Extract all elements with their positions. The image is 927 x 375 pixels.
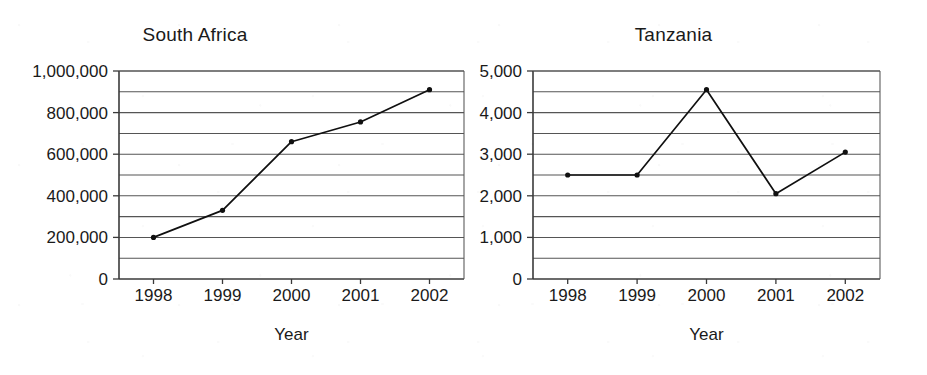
y-tick-label: 3,000 [479,145,522,164]
x-axis-title: Year [274,325,309,344]
x-tick-label: 2001 [342,286,380,305]
y-tick-label: 600,000 [47,145,108,164]
plot-area-tanzania: 01,0002,0003,0004,0005,00019981999200020… [460,0,927,375]
y-tick-label: 0 [99,270,108,289]
chart-panel-tanzania: Tanzania 01,0002,0003,0004,0005,00019981… [460,0,927,375]
data-point-marker [773,191,778,196]
data-point-marker [289,139,294,144]
data-point-marker [635,172,640,177]
y-tick-label: 400,000 [47,187,108,206]
data-point-marker [843,150,848,155]
data-point-marker [220,208,225,213]
x-axis-title: Year [689,325,724,344]
x-tick-label: 2002 [826,286,864,305]
data-point-marker [358,119,363,124]
x-tick-label: 2001 [757,286,795,305]
y-tick-label: 200,000 [47,228,108,247]
chart-panel-south-africa: South Africa 0200,000400,000600,000800,0… [0,0,470,375]
data-point-marker [427,87,432,92]
data-point-marker [704,87,709,92]
y-tick-label: 800,000 [47,104,108,123]
data-point-marker [565,172,570,177]
y-tick-label: 0 [513,270,522,289]
x-tick-label: 1998 [549,286,587,305]
x-tick-label: 1998 [135,286,173,305]
y-tick-label: 1,000,000 [32,62,108,81]
y-tick-label: 5,000 [479,62,522,81]
x-tick-label: 1999 [618,286,656,305]
plot-area-south-africa: 0200,000400,000600,000800,0001,000,00019… [0,0,470,375]
y-tick-label: 4,000 [479,104,522,123]
x-tick-label: 2000 [273,286,311,305]
y-tick-label: 1,000 [479,228,522,247]
data-point-marker [151,235,156,240]
data-series-line [154,90,430,238]
x-tick-label: 2002 [411,286,449,305]
x-tick-label: 2000 [688,286,726,305]
data-series-line [568,90,846,194]
two-panel-line-chart-figure: South Africa 0200,000400,000600,000800,0… [0,0,927,375]
y-tick-label: 2,000 [479,187,522,206]
x-tick-label: 1999 [204,286,242,305]
